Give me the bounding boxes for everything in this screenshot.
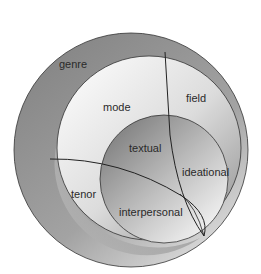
diagram-canvas: genre mode field textual ideational teno… [0,0,261,274]
label-tenor: tenor [71,188,96,200]
label-interpersonal: interpersonal [119,206,183,218]
label-genre: genre [59,58,87,70]
label-textual: textual [129,142,161,154]
label-ideational: ideational [182,166,229,178]
metafunction-circle [100,115,228,243]
label-field: field [186,92,206,104]
label-mode: mode [103,101,131,113]
